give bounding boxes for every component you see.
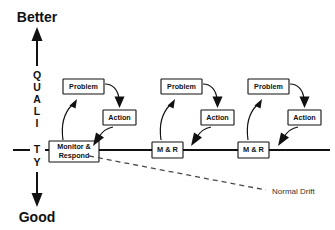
problem-label-3: Problem	[254, 82, 283, 91]
problem-to-action-arrow-3	[290, 84, 310, 108]
axis-letter-i: I	[36, 117, 39, 129]
problem-label-2: Problem	[167, 82, 196, 91]
monitor-respond-label-line1: Monitor &	[57, 142, 91, 151]
monitor-to-problem-arrow-2	[160, 99, 175, 140]
monitor-respond-label-2: M & R	[157, 145, 179, 154]
axis-letter-a: A	[33, 93, 41, 105]
cycle-3: M & R Problem Action	[238, 79, 321, 158]
arrow-up-icon	[32, 27, 43, 66]
monitor-respond-box-1[interactable]: Monitor & Respond	[49, 141, 99, 162]
monitor-to-problem-arrow-3	[247, 99, 262, 140]
action-box-3[interactable]: Action	[288, 110, 321, 125]
action-box-1[interactable]: Action	[103, 110, 136, 125]
problem-label-1: Problem	[69, 82, 98, 91]
monitor-respond-box-3[interactable]: M & R	[238, 142, 269, 158]
diagram-canvas: Better Q U A L I T Y Good	[0, 0, 335, 230]
quality-axis: Better Q U A L I T Y Good	[17, 9, 58, 225]
monitor-respond-box-2[interactable]: M & R	[152, 142, 183, 158]
normal-drift-line	[89, 156, 266, 190]
arrow-down-icon	[32, 172, 43, 207]
monitor-respond-label-line2: Respond	[59, 151, 90, 160]
monitor-to-problem-arrow-1	[62, 99, 77, 140]
normal-drift-label: Normal Drift	[272, 187, 315, 196]
monitor-respond-label-3: M & R	[243, 145, 265, 154]
axis-letter-u: U	[33, 81, 41, 93]
axis-letter-l: L	[34, 105, 41, 117]
axis-vertical-letters: Q U A L I T Y	[33, 69, 41, 168]
cycle-2: M & R Problem Action	[152, 79, 234, 158]
action-label-1: Action	[108, 113, 130, 122]
action-box-2[interactable]: Action	[201, 110, 234, 125]
quality-cycle-diagram: Better Q U A L I T Y Good	[0, 0, 335, 230]
axis-letter-t: T	[34, 143, 41, 155]
axis-letter-q: Q	[33, 69, 41, 81]
action-label-3: Action	[293, 113, 315, 122]
problem-box-1[interactable]: Problem	[63, 79, 104, 94]
problem-to-action-arrow-2	[203, 84, 223, 108]
action-to-baseline-arrow-2	[191, 127, 211, 146]
action-to-baseline-arrow-3	[278, 127, 298, 146]
axis-bottom-label: Good	[19, 209, 56, 225]
action-to-baseline-arrow-1	[93, 127, 113, 146]
axis-top-label: Better	[17, 9, 58, 25]
problem-box-3[interactable]: Problem	[248, 79, 289, 94]
normal-drift: Normal Drift	[89, 156, 315, 196]
axis-letter-y: Y	[33, 156, 40, 168]
action-label-2: Action	[206, 113, 228, 122]
problem-box-2[interactable]: Problem	[161, 79, 202, 94]
problem-to-action-arrow-1	[105, 84, 125, 108]
